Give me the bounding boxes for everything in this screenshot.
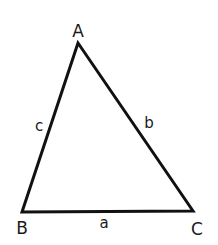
vertex-label-b: B: [16, 218, 28, 238]
triangle-abc: [22, 43, 193, 212]
vertex-label-c: C: [191, 219, 203, 239]
side-label-b: b: [144, 114, 154, 132]
triangle-diagram: A B C a b c: [0, 0, 218, 245]
vertex-label-a: A: [72, 21, 84, 41]
side-label-a: a: [99, 214, 108, 232]
side-label-c: c: [35, 117, 43, 135]
